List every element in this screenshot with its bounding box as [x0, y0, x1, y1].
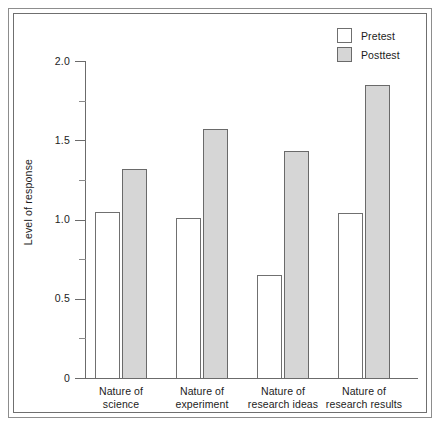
legend-swatch-posttest-icon	[337, 47, 352, 62]
legend: Pretest Posttest	[337, 26, 400, 64]
y-tick-major	[75, 140, 86, 141]
legend-item-posttest: Posttest	[337, 45, 400, 64]
y-tick-label: 0.5	[30, 293, 70, 304]
bar-posttest-group-1	[122, 169, 147, 378]
figure-bar-chart: 00.51.01.52.0 Nature of scienceNature of…	[0, 0, 444, 444]
legend-label-posttest: Posttest	[361, 49, 400, 61]
y-tick-major	[75, 61, 86, 62]
x-axis-label-group-4: Nature of research results	[314, 385, 414, 410]
y-tick-label: 2.0	[30, 56, 70, 67]
plot-area: 00.51.01.52.0 Nature of scienceNature of…	[0, 0, 444, 444]
y-tick-minor	[79, 101, 86, 102]
y-tick-minor	[79, 338, 86, 339]
bar-posttest-group-3	[284, 151, 309, 378]
y-tick-minor	[79, 180, 86, 181]
y-axis-title: Level of response	[22, 137, 34, 267]
y-tick-major	[75, 378, 86, 379]
bar-pretest-group-2	[176, 218, 201, 378]
bar-pretest-group-1	[95, 212, 120, 378]
y-tick-label: 0	[30, 373, 70, 384]
bar-posttest-group-2	[203, 129, 228, 378]
y-tick-major	[75, 220, 86, 221]
bar-pretest-group-4	[338, 213, 363, 378]
y-tick-label: 1.0	[30, 214, 70, 225]
legend-label-pretest: Pretest	[361, 30, 395, 42]
y-tick-major	[75, 299, 86, 300]
x-axis-line	[85, 378, 418, 379]
bar-pretest-group-3	[257, 275, 282, 378]
legend-item-pretest: Pretest	[337, 26, 400, 45]
y-tick-label: 1.5	[30, 135, 70, 146]
bar-posttest-group-4	[365, 85, 390, 378]
legend-swatch-pretest-icon	[337, 28, 352, 43]
y-tick-minor	[79, 259, 86, 260]
